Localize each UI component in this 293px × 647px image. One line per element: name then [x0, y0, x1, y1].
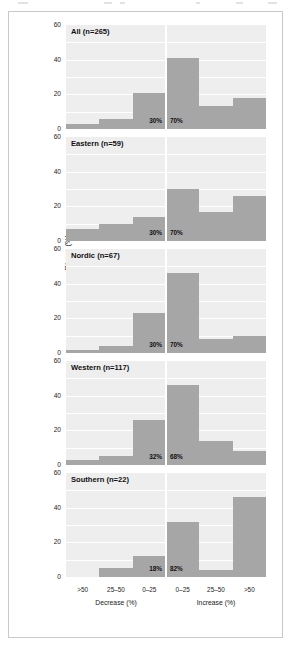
panel-all: All (n=265)020406030%70% — [9, 25, 282, 137]
panel-southern: Southern (n=22)020406018%82% — [9, 473, 282, 585]
panel-western: Western (n=117)020406032%68% — [9, 361, 282, 473]
bar — [233, 196, 266, 241]
increase-percent-label: 70% — [170, 341, 183, 348]
panel-stack: All (n=265)020406030%70%Eastern (n=59)02… — [9, 25, 282, 585]
increase-percent-label: 70% — [170, 229, 183, 236]
bar — [199, 212, 232, 241]
x-tick-label: >50 — [66, 586, 99, 593]
y-tick-label: 40 — [43, 504, 61, 511]
plot-area — [66, 473, 266, 577]
center-divider — [165, 249, 167, 353]
increase-percent-label: 68% — [170, 453, 183, 460]
decrease-percent-label: 30% — [149, 229, 162, 236]
x-tick-labels: >5025–500–250–2525–50>50 — [66, 586, 266, 593]
bar — [99, 224, 132, 241]
bar — [199, 570, 232, 577]
bar — [99, 456, 132, 465]
decrease-percent-label: 18% — [149, 565, 162, 572]
decrease-percent-label: 30% — [149, 341, 162, 348]
panel-title: Western (n=117) — [71, 363, 129, 372]
panel-eastern: Eastern (n=59)020406030%70% — [9, 137, 282, 249]
panel-nordic: Nordic (n=67)020406030%70% — [9, 249, 282, 361]
y-tick-label: 60 — [43, 245, 61, 252]
plot-area — [66, 361, 266, 465]
plot-area — [66, 25, 266, 129]
bar — [99, 119, 132, 129]
bar — [66, 229, 99, 241]
bar — [66, 350, 99, 353]
y-tick-label: 20 — [43, 202, 61, 209]
decrease-percent-label: 32% — [149, 453, 162, 460]
y-tick-label: 20 — [43, 90, 61, 97]
y-tick-label: 60 — [43, 133, 61, 140]
plot-area — [66, 137, 266, 241]
y-tick-label: 60 — [43, 21, 61, 28]
x-group-labels: Decrease (%)Increase (%) — [66, 599, 266, 606]
y-tick-label: 20 — [43, 314, 61, 321]
panel-title: All (n=265) — [71, 27, 110, 36]
bar — [66, 124, 99, 129]
bar — [233, 336, 266, 353]
panel-title: Eastern (n=59) — [71, 139, 124, 148]
x-group-label: Increase (%) — [166, 599, 266, 606]
bar — [99, 568, 132, 577]
bar — [199, 106, 232, 129]
panel-title: Nordic (n=67) — [71, 251, 120, 260]
y-tick-label: 0 — [43, 461, 61, 468]
y-tick-label: 20 — [43, 426, 61, 433]
x-tick-label: 0–25 — [133, 586, 166, 593]
y-tick-label: 60 — [43, 357, 61, 364]
scan-artifacts — [0, 0, 293, 10]
y-tick-label: 0 — [43, 573, 61, 580]
y-tick-label: 40 — [43, 168, 61, 175]
center-divider — [165, 137, 167, 241]
y-tick-label: 40 — [43, 280, 61, 287]
y-tick-label: 60 — [43, 469, 61, 476]
panel-title: Southern (n=22) — [71, 475, 129, 484]
increase-percent-label: 82% — [170, 565, 183, 572]
bar — [233, 497, 266, 577]
y-tick-label: 40 — [43, 56, 61, 63]
figure-frame: Rivers (%) All (n=265)020406030%70%Easte… — [8, 11, 283, 638]
bar — [233, 98, 266, 129]
x-tick-label: 25–50 — [99, 586, 132, 593]
y-tick-label: 0 — [43, 125, 61, 132]
bar — [199, 339, 232, 353]
y-tick-label: 0 — [43, 349, 61, 356]
x-tick-label: >50 — [233, 586, 266, 593]
x-tick-label: 25–50 — [199, 586, 232, 593]
decrease-percent-label: 30% — [149, 117, 162, 124]
center-divider — [165, 473, 167, 577]
y-tick-label: 20 — [43, 538, 61, 545]
x-tick-label: 0–25 — [166, 586, 199, 593]
bar — [199, 441, 232, 465]
x-group-label: Decrease (%) — [66, 599, 166, 606]
plot-area — [66, 249, 266, 353]
increase-percent-label: 70% — [170, 117, 183, 124]
center-divider — [165, 25, 167, 129]
x-axis: >5025–500–250–2525–50>50 Decrease (%)Inc… — [66, 586, 266, 626]
bar — [99, 346, 132, 353]
y-tick-label: 40 — [43, 392, 61, 399]
bar — [66, 460, 99, 465]
y-tick-label: 0 — [43, 237, 61, 244]
bar — [233, 451, 266, 465]
center-divider — [165, 361, 167, 465]
